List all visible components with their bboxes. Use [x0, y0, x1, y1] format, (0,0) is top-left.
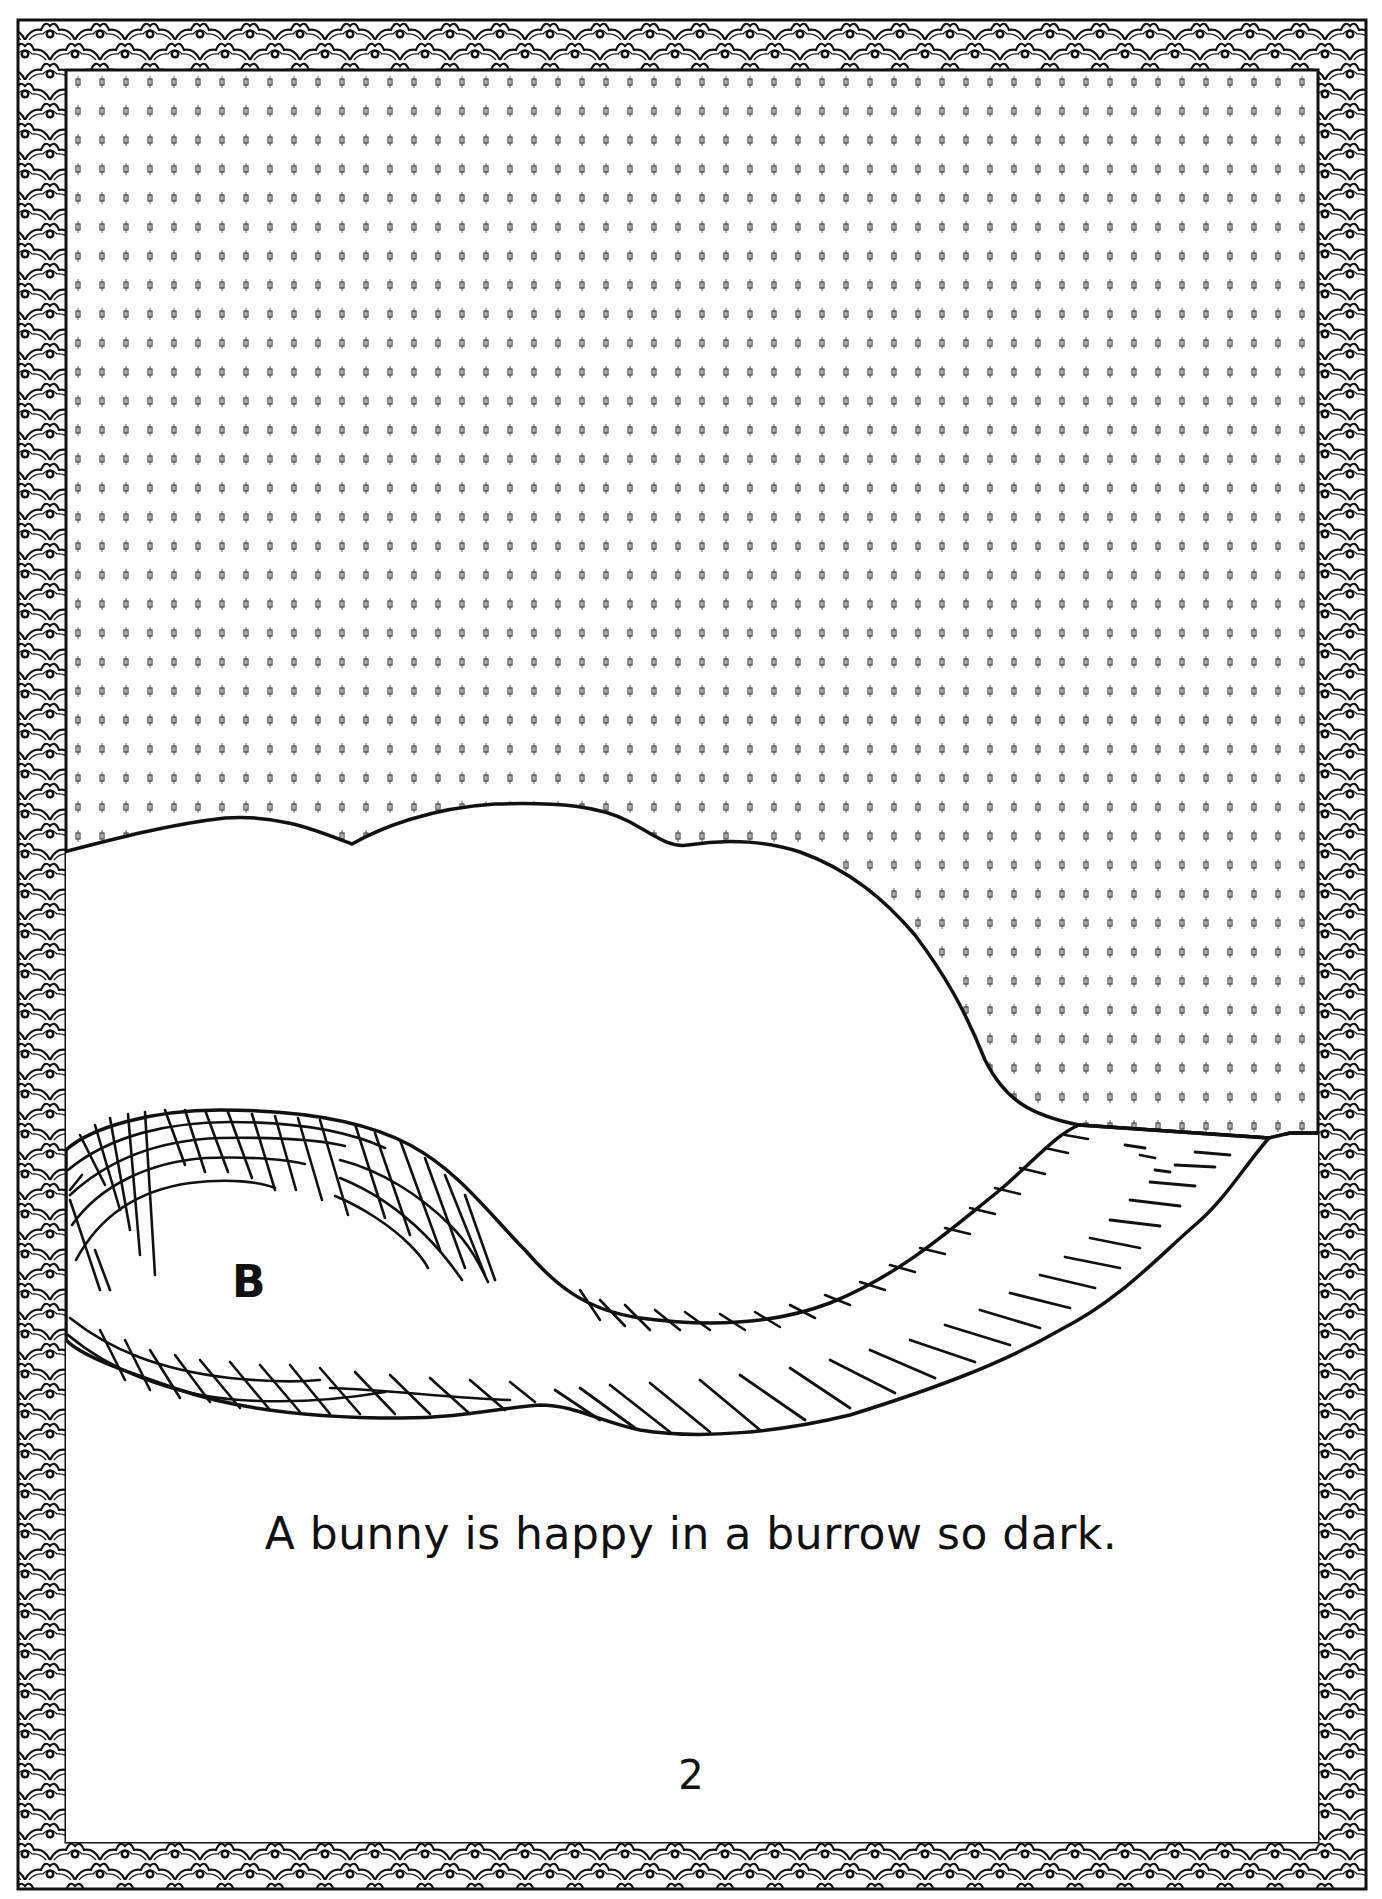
region-label-b: B — [232, 1256, 266, 1307]
caption-text: A bunny is happy in a burrow so dark. — [0, 1508, 1382, 1559]
coloring-page: B A bunny is happy in a burrow so dark. … — [0, 0, 1382, 1899]
illustration — [0, 0, 1382, 1899]
page-number: 2 — [0, 1752, 1382, 1798]
